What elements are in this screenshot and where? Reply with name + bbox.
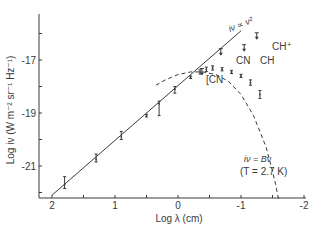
x-tick-label: 1 <box>112 200 118 211</box>
measurement-point <box>240 74 243 77</box>
rayleigh-jeans-label: iν ∝ ν² <box>227 15 255 34</box>
x-axis-title: Log λ (cm) <box>155 213 202 224</box>
measurement-point <box>249 80 252 85</box>
measurement-point <box>211 66 214 70</box>
rayleigh-jeans-line <box>52 31 241 195</box>
y-axis-title: Log iν (W m⁻² sr⁻¹ Hz⁻¹) <box>5 56 16 165</box>
x-tick-label: -1 <box>237 200 246 211</box>
measurement-point <box>189 76 192 79</box>
cn-upper-limit-label: CN <box>236 55 250 66</box>
cn-bracket-label: [CN <box>206 74 223 85</box>
measurement-point <box>63 177 66 189</box>
upper-limit-arrow-icon <box>242 45 246 52</box>
blackbody-label: iν = Bν <box>244 154 272 164</box>
chplus-upper-limit-label: CH⁺ <box>272 41 292 52</box>
blackbody-temperature-label: (T = 2.7 K) <box>240 166 287 177</box>
measurement-point <box>258 90 261 98</box>
measurement-point <box>221 68 224 71</box>
x-tick-label: 0 <box>175 200 181 211</box>
upper-limit-arrow-icon <box>255 33 259 40</box>
measurement-point <box>230 70 233 73</box>
x-ticks: 210-1-2 <box>49 195 309 211</box>
y-tick-label: -19 <box>22 108 37 119</box>
measurement-point <box>205 67 208 71</box>
ch-upper-limit-label: CH <box>260 55 274 66</box>
cmb-spectrum-chart: -17-19-21 210-1-2 Log iν (W m⁻² sr⁻¹ Hz⁻… <box>0 0 313 226</box>
measurement-point <box>145 114 148 117</box>
y-tick-label: -21 <box>22 161 37 172</box>
x-tick-label: 2 <box>49 200 55 211</box>
y-tick-label: -17 <box>22 55 37 66</box>
x-tick-label: -2 <box>300 200 309 211</box>
